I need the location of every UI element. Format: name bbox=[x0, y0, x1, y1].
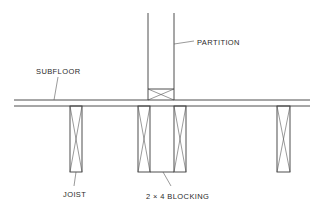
leader-joist bbox=[74, 172, 76, 186]
joist-center-left bbox=[138, 106, 150, 172]
partition bbox=[148, 13, 174, 100]
partition-sole-plate bbox=[148, 89, 174, 100]
label-partition: PARTITION bbox=[197, 38, 240, 47]
joist-center-right bbox=[174, 106, 186, 172]
leader-partition bbox=[174, 41, 194, 44]
leader-subfloor bbox=[54, 77, 58, 100]
joist-left bbox=[70, 106, 82, 172]
label-blocking: 2 × 4 BLOCKING bbox=[146, 192, 209, 201]
label-joist: JOIST bbox=[63, 190, 86, 199]
leader-blocking bbox=[163, 172, 171, 186]
label-subfloor: SUBFLOOR bbox=[36, 67, 81, 76]
joist-right bbox=[277, 106, 290, 172]
subfloor bbox=[14, 100, 310, 106]
framing-diagram: PARTITION SUBFLOOR JOIST 2 × 4 BLOCKING bbox=[0, 0, 322, 208]
